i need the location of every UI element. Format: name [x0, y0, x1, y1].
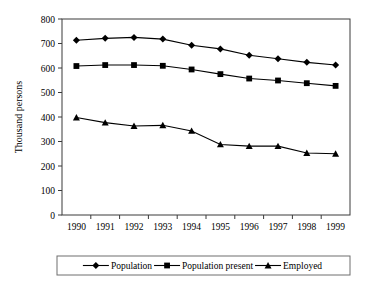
square-marker: [275, 78, 281, 84]
diamond-marker: [332, 62, 339, 69]
x-axis-tick-label: 1997: [269, 222, 288, 232]
x-axis-tick-label: 1998: [297, 222, 316, 232]
series-line: [76, 117, 335, 153]
y-axis-tick-label: 800: [41, 15, 56, 25]
diamond-marker: [246, 52, 253, 59]
series-line: [76, 37, 335, 65]
diamond-marker: [159, 36, 166, 43]
y-axis-tick-label: 0: [50, 211, 55, 221]
diamond-marker: [102, 35, 109, 42]
x-axis-tick-label: 1990: [67, 222, 86, 232]
x-axis-tick-label: 1991: [96, 222, 115, 232]
diamond-marker: [303, 59, 310, 66]
legend-label: Population present: [182, 261, 253, 271]
square-marker: [218, 71, 224, 77]
square-marker: [160, 63, 166, 69]
diamond-marker: [188, 42, 195, 49]
square-marker: [333, 83, 339, 89]
x-axis-tick-label: 1993: [153, 222, 172, 232]
diamond-marker: [217, 45, 224, 52]
y-axis-tick-label: 100: [41, 186, 56, 196]
y-axis-tick-label: 600: [41, 64, 56, 74]
diamond-marker: [275, 55, 282, 62]
series-line: [76, 65, 335, 86]
plot-frame: [62, 19, 350, 215]
x-axis-tick-label: 1999: [326, 222, 345, 232]
square-marker: [74, 63, 80, 69]
x-axis-tick-label: 1996: [240, 222, 259, 232]
series-population: [73, 34, 339, 69]
legend-label: Population: [111, 261, 152, 271]
line-chart: 0100200300400500600700800199019911992199…: [0, 0, 365, 292]
y-axis-tick-label: 200: [41, 162, 56, 172]
square-marker: [304, 80, 310, 86]
y-axis-tick-label: 500: [41, 88, 56, 98]
chart-canvas: 0100200300400500600700800199019911992199…: [0, 0, 365, 292]
y-axis-tick-label: 400: [41, 113, 56, 123]
y-axis-title: Thousand persons: [13, 81, 24, 154]
square-marker: [102, 62, 108, 68]
triangle-marker: [73, 114, 80, 120]
x-axis-tick-label: 1995: [211, 222, 230, 232]
legend-label: Employed: [283, 261, 322, 271]
series-population-present: [74, 62, 339, 89]
square-marker: [189, 67, 195, 73]
y-axis-tick-label: 700: [41, 39, 56, 49]
square-marker: [131, 62, 137, 68]
x-axis-tick-label: 1992: [125, 222, 144, 232]
diamond-marker: [131, 34, 138, 41]
diamond-marker: [73, 37, 80, 44]
series-employed: [73, 114, 339, 157]
y-axis-tick-label: 300: [41, 137, 56, 147]
x-axis-tick-label: 1994: [182, 222, 201, 232]
square-marker: [246, 76, 252, 82]
